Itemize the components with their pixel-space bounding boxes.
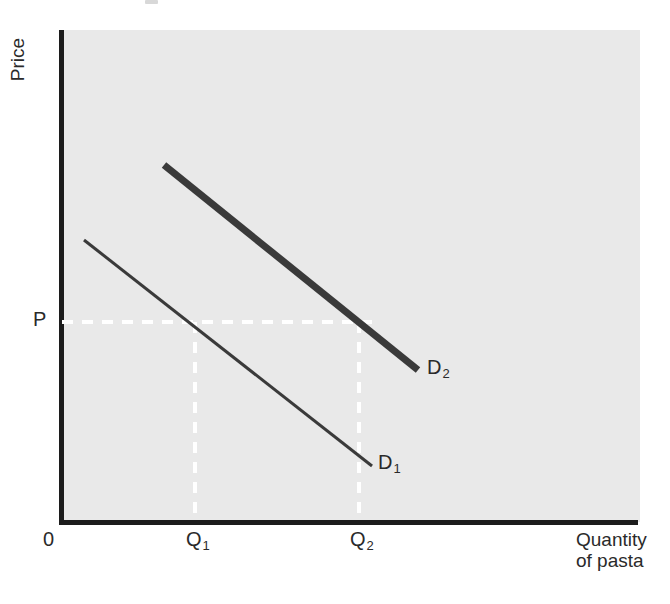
d2-label-letter: D: [427, 356, 441, 378]
demand-curve-d2-label: D2: [427, 357, 449, 377]
y-axis-title-text: Price: [8, 38, 27, 81]
q2-tick-subscript: 2: [367, 538, 374, 553]
d1-label-subscript: 1: [393, 461, 400, 476]
x-axis-title: Quantity of pasta: [576, 529, 647, 572]
demand-curve-d1-label: D1: [378, 452, 400, 472]
origin-label: 0: [43, 529, 54, 549]
d2-label-subscript: 2: [442, 366, 449, 381]
x-axis-title-line1: Quantity: [576, 529, 647, 550]
demand-curve-d1: [84, 240, 372, 466]
curve-layer: [0, 0, 670, 604]
d1-label-letter: D: [378, 451, 392, 473]
y-axis-title: Price: [8, 0, 27, 38]
q1-tick-subscript: 1: [203, 538, 210, 553]
q1-tick-letter: Q: [186, 528, 202, 550]
x-axis-title-line2: of pasta: [576, 550, 647, 571]
price-tick-label: P: [33, 309, 46, 329]
q1-tick-label: Q1: [186, 529, 209, 549]
demand-shift-figure: Price P 0 Q1 Q2 Quantity of pasta D1 D2: [0, 0, 670, 604]
demand-curve-d2: [164, 165, 418, 370]
q2-tick-letter: Q: [350, 528, 366, 550]
q2-tick-label: Q2: [350, 529, 373, 549]
